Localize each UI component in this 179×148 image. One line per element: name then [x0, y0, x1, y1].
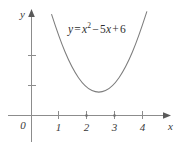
- equation-constant: 6: [120, 23, 126, 35]
- root-marker-x2: [85, 114, 88, 117]
- equation-equals: =: [73, 23, 82, 35]
- parabola-figure: 0 1 2 3 4 x y y=x2−5x+6: [0, 0, 179, 148]
- x-tick-label-4: 4: [136, 122, 149, 133]
- equation-minus: −: [91, 23, 100, 35]
- origin-label: 0: [17, 120, 29, 131]
- y-axis-label: y: [20, 9, 25, 20]
- y-axis-arrow-icon: [28, 9, 35, 17]
- x-axis-label: x: [168, 121, 173, 132]
- x-axis-arrow-icon: [163, 112, 171, 119]
- x-tick-label-2: 2: [80, 122, 93, 133]
- x-tick-label-1: 1: [52, 122, 65, 133]
- equation-plus: +: [111, 23, 120, 35]
- x-tick-label-3: 3: [108, 122, 121, 133]
- root-marker-x3: [113, 114, 116, 117]
- equation-annotation: y=x2−5x+6: [68, 23, 126, 35]
